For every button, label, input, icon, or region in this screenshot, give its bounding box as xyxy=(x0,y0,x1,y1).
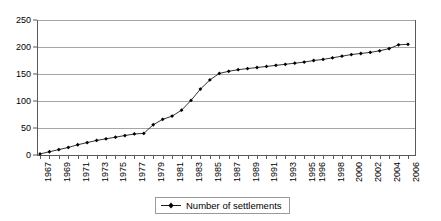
x-axis-tick-1991 xyxy=(266,155,267,159)
x-axis-line xyxy=(37,155,416,156)
y-axis-label-0: 0 xyxy=(26,151,31,160)
x-axis-label-1977: 1977 xyxy=(138,162,147,182)
x-axis-tick-1999 xyxy=(342,155,343,159)
x-axis-tick-1982 xyxy=(182,155,183,159)
x-axis-label-2002: 2002 xyxy=(374,162,383,182)
x-axis-label-1971: 1971 xyxy=(82,162,91,182)
x-axis-tick-1985 xyxy=(210,155,211,159)
x-axis-tick-1989 xyxy=(248,155,249,159)
y-axis-tick-50 xyxy=(33,128,37,129)
x-axis-tick-1980 xyxy=(163,155,164,159)
x-axis-tick-1975 xyxy=(115,155,116,159)
legend-symbol-icon xyxy=(161,201,181,210)
x-axis-tick-1983 xyxy=(191,155,192,159)
x-axis-tick-1996 xyxy=(314,155,315,159)
x-axis-tick-2002 xyxy=(370,155,371,159)
x-axis-tick-1968 xyxy=(49,155,50,159)
x-axis-tick-1995 xyxy=(304,155,305,159)
x-axis-tick-1993 xyxy=(285,155,286,159)
x-axis-label-1991: 1991 xyxy=(270,162,279,182)
x-axis-label-1995: 1995 xyxy=(308,162,317,182)
legend-label: Number of settlements xyxy=(186,201,282,211)
x-axis-tick-1992 xyxy=(276,155,277,159)
x-axis-label-1979: 1979 xyxy=(157,162,166,182)
x-axis-tick-2001 xyxy=(361,155,362,159)
x-axis-tick-1994 xyxy=(295,155,296,159)
x-axis-tick-1988 xyxy=(238,155,239,159)
x-axis-tick-1998 xyxy=(333,155,334,159)
x-axis-tick-1979 xyxy=(153,155,154,159)
x-axis-label-1998: 1998 xyxy=(337,162,346,182)
x-axis-tick-1972 xyxy=(87,155,88,159)
x-axis-label-1967: 1967 xyxy=(44,162,53,182)
x-axis-tick-1984 xyxy=(200,155,201,159)
x-axis-tick-1997 xyxy=(323,155,324,159)
y-axis-tick-100 xyxy=(33,101,37,102)
x-axis-tick-2003 xyxy=(380,155,381,159)
y-axis-tick-150 xyxy=(33,74,37,75)
x-axis-tick-1976 xyxy=(125,155,126,159)
gridline-250 xyxy=(37,20,415,21)
x-axis-label-1985: 1985 xyxy=(214,162,223,182)
x-axis-tick-1967 xyxy=(40,155,41,159)
y-axis-label-150: 150 xyxy=(16,70,31,79)
x-axis-tick-1973 xyxy=(97,155,98,159)
x-axis-tick-1971 xyxy=(78,155,79,159)
gridline-100 xyxy=(37,101,415,102)
chart-legend: Number of settlements xyxy=(155,197,290,214)
x-axis-tick-1970 xyxy=(68,155,69,159)
y-axis-line xyxy=(37,20,38,156)
x-axis-tick-2004 xyxy=(389,155,390,159)
x-axis-label-1987: 1987 xyxy=(233,162,242,182)
y-axis-tick-200 xyxy=(33,47,37,48)
y-axis-label-100: 100 xyxy=(16,97,31,106)
x-axis-label-1969: 1969 xyxy=(63,162,72,182)
gridline-150 xyxy=(37,74,415,75)
y-axis-labels-group: 050100150200250 xyxy=(0,0,31,221)
x-axis-tick-2005 xyxy=(399,155,400,159)
chart-container: 050100150200250 196719691971197319751977… xyxy=(0,0,441,221)
x-axis-label-1989: 1989 xyxy=(252,162,261,182)
x-axis-label-1981: 1981 xyxy=(176,162,185,182)
x-axis-label-1975: 1975 xyxy=(119,162,128,182)
plot-background xyxy=(37,20,415,155)
plot-right-border xyxy=(415,20,416,156)
x-axis-tick-1974 xyxy=(106,155,107,159)
x-axis-label-2000: 2000 xyxy=(355,162,364,182)
x-axis-tick-1981 xyxy=(172,155,173,159)
y-axis-label-250: 250 xyxy=(16,16,31,25)
plot-area xyxy=(37,20,415,155)
x-axis-tick-2000 xyxy=(351,155,352,159)
x-axis-tick-1987 xyxy=(229,155,230,159)
x-axis-tick-1990 xyxy=(257,155,258,159)
x-axis-label-2004: 2004 xyxy=(393,162,402,182)
x-axis-label-1983: 1983 xyxy=(195,162,204,182)
x-axis-tick-2006 xyxy=(408,155,409,159)
y-axis-label-50: 50 xyxy=(21,124,31,133)
x-axis-label-1973: 1973 xyxy=(101,162,110,182)
y-axis-tick-250 xyxy=(33,20,37,21)
gridline-200 xyxy=(37,47,415,48)
x-axis-label-2006: 2006 xyxy=(412,162,421,182)
y-axis-tick-0 xyxy=(33,155,37,156)
y-axis-label-200: 200 xyxy=(16,43,31,52)
x-axis-tick-1977 xyxy=(134,155,135,159)
gridline-50 xyxy=(37,128,415,129)
x-axis-tick-1978 xyxy=(144,155,145,159)
x-axis-label-1996: 1996 xyxy=(318,162,327,182)
x-axis-label-1993: 1993 xyxy=(289,162,298,182)
x-axis-tick-1986 xyxy=(219,155,220,159)
x-axis-tick-1969 xyxy=(59,155,60,159)
